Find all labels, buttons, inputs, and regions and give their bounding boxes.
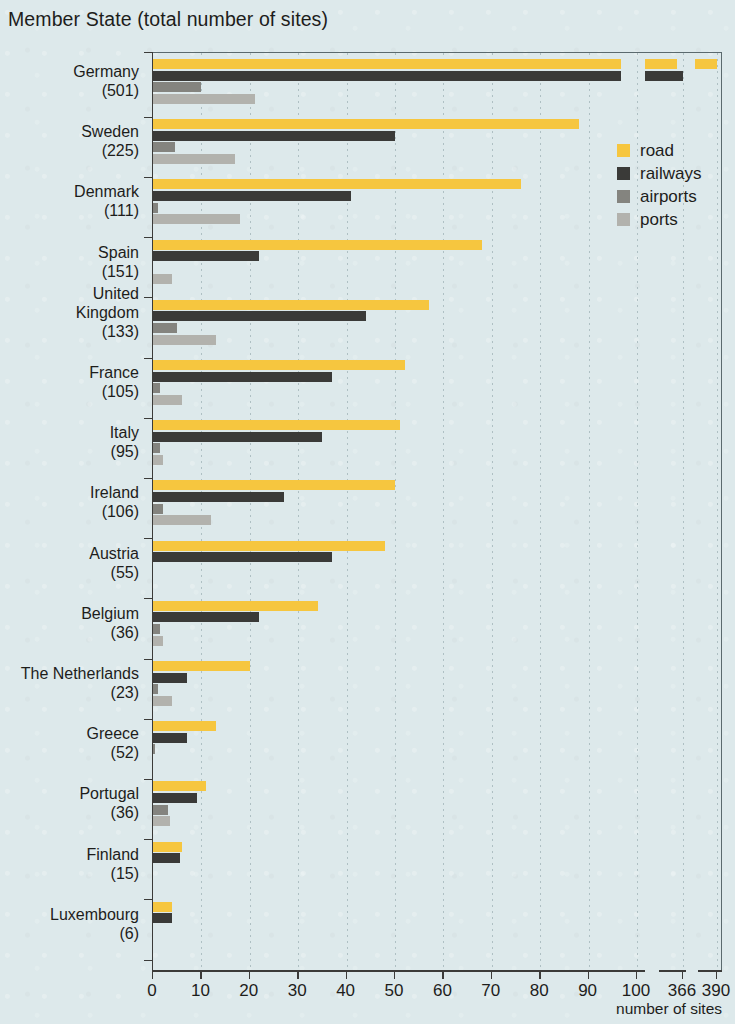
bar-segment <box>645 71 683 81</box>
category-label: Belgium(36) <box>0 604 139 642</box>
bar-segment <box>153 552 332 562</box>
bar-segment <box>153 636 163 646</box>
x-axis-tick <box>491 970 492 979</box>
x-axis-tick-label: 30 <box>288 981 307 1001</box>
category-total: (133) <box>0 322 139 341</box>
bar-segment <box>153 515 211 525</box>
bar-segment <box>153 902 172 912</box>
x-axis-tick-label: 100 <box>622 981 650 1001</box>
category-name: Sweden <box>81 123 139 140</box>
y-axis-tick <box>144 418 153 419</box>
category-label: Sweden(225) <box>0 122 139 160</box>
bar-segment <box>153 842 182 852</box>
bar-segment <box>153 203 158 213</box>
bar-segment <box>153 601 318 611</box>
y-axis-tick <box>144 297 153 298</box>
bar-segment <box>645 59 677 69</box>
bar-segment <box>153 781 206 791</box>
bar-segment <box>153 274 172 284</box>
bar-segment <box>153 480 395 490</box>
category-label: UnitedKingdom(133) <box>0 284 139 341</box>
chart-legend: roadrailwaysairportsports <box>617 139 701 231</box>
category-total: (36) <box>0 803 139 822</box>
bar-group <box>153 300 721 345</box>
bar-segment <box>153 214 240 224</box>
category-label: The Netherlands(23) <box>0 664 139 702</box>
x-axis-tick <box>588 970 589 979</box>
bar-segment <box>153 793 197 803</box>
category-label: Italy(95) <box>0 423 139 461</box>
category-label: Luxembourg(6) <box>0 905 139 943</box>
bar-group <box>153 842 721 887</box>
category-total: (151) <box>0 262 139 281</box>
bar-segment <box>153 492 284 502</box>
chart-title: Member State (total number of sites) <box>8 8 328 31</box>
category-name: Finland <box>87 846 139 863</box>
bar-segment <box>153 661 250 671</box>
bar-segment <box>153 455 163 465</box>
y-axis-tick <box>144 538 153 539</box>
bar-group <box>153 902 721 947</box>
category-name: Greece <box>87 725 139 742</box>
bar-group <box>153 420 721 465</box>
x-axis-tick <box>297 970 298 979</box>
category-label: Germany(501) <box>0 62 139 100</box>
bar-segment <box>153 131 395 141</box>
bar-segment <box>153 913 172 923</box>
bar-group <box>153 601 721 646</box>
bar-segment <box>153 504 163 514</box>
bar-segment <box>153 733 187 743</box>
category-name: Spain <box>98 244 139 261</box>
x-axis-tick-label: 90 <box>578 981 597 1001</box>
category-total: (225) <box>0 141 139 160</box>
x-axis-caption: number of sites <box>616 1000 722 1018</box>
bar-segment <box>153 360 405 370</box>
x-axis-tick <box>394 970 395 979</box>
bar-segment <box>153 612 259 622</box>
bar-segment <box>153 71 621 81</box>
bar-segment <box>153 311 366 321</box>
x-axis-tick-label: 80 <box>530 981 549 1001</box>
bar-segment <box>153 300 429 310</box>
category-total: (106) <box>0 502 139 521</box>
x-axis-tick <box>249 970 250 979</box>
bar-group <box>153 721 721 766</box>
bar-segment <box>153 541 385 551</box>
category-total: (55) <box>0 563 139 582</box>
x-axis-tick <box>346 970 347 979</box>
y-axis-tick <box>144 659 153 660</box>
bar-segment <box>153 240 482 250</box>
bar-segment <box>153 251 259 261</box>
bar-segment <box>153 372 332 382</box>
y-axis-tick <box>144 719 153 720</box>
bar-group <box>153 661 721 706</box>
axis-break-mark <box>645 968 659 973</box>
x-axis-tick-label: 40 <box>336 981 355 1001</box>
category-label: Greece(52) <box>0 724 139 762</box>
bar-segment <box>153 59 621 69</box>
bar-segment <box>153 82 201 92</box>
category-name: Luxembourg <box>50 906 139 923</box>
bar-segment <box>153 154 235 164</box>
category-name: Germany <box>73 63 139 80</box>
bar-segment <box>153 696 172 706</box>
category-label: Portugal(36) <box>0 784 139 822</box>
legend-swatch-airports <box>617 190 630 203</box>
bar-group <box>153 541 721 586</box>
category-name: France <box>89 364 139 381</box>
y-axis-tick <box>144 779 153 780</box>
y-axis-tick <box>144 237 153 238</box>
category-name: Belgium <box>81 605 139 622</box>
x-axis-tick-label: 390 <box>702 981 730 1001</box>
bar-segment <box>153 323 177 333</box>
bar-segment <box>153 624 160 634</box>
category-label: France(105) <box>0 363 139 401</box>
y-axis-tick <box>144 52 153 53</box>
bar-segment <box>153 816 170 826</box>
legend-label: airports <box>640 188 697 205</box>
bar-segment <box>153 179 521 189</box>
category-label: Austria(55) <box>0 544 139 582</box>
bar-segment <box>153 142 175 152</box>
axis-break-mark <box>686 968 698 973</box>
category-label: Finland(15) <box>0 845 139 883</box>
